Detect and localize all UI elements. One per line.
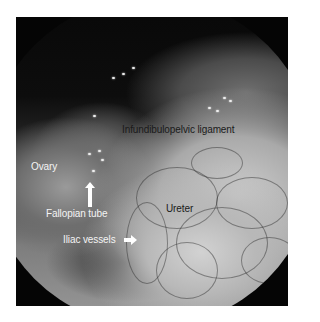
specular-glint (93, 115, 96, 117)
arrow-right-icon (124, 238, 132, 242)
label-fallopian-tube: Fallopian tube (46, 208, 107, 220)
specular-glint (208, 107, 211, 109)
vessel-line (241, 237, 288, 284)
specular-glint (229, 100, 232, 102)
specular-glint (132, 67, 135, 69)
specular-glint (112, 77, 115, 79)
specular-glint (216, 110, 219, 112)
specular-glint (88, 153, 91, 155)
arrow-up-icon (88, 187, 92, 207)
specular-glint (92, 170, 95, 172)
vessel-line (191, 147, 243, 179)
label-ovary: Ovary (31, 161, 57, 173)
label-ureter: Ureter (166, 203, 193, 215)
specular-glint (122, 73, 125, 75)
label-infundibulopelvic-ligament: Infundibulopelvic ligament (122, 124, 234, 136)
specular-glint (101, 159, 104, 161)
label-iliac-vessels: Iliac vessels (63, 234, 116, 246)
specular-glint (98, 150, 101, 152)
specular-glint (223, 97, 226, 99)
vessel-line (216, 177, 288, 229)
